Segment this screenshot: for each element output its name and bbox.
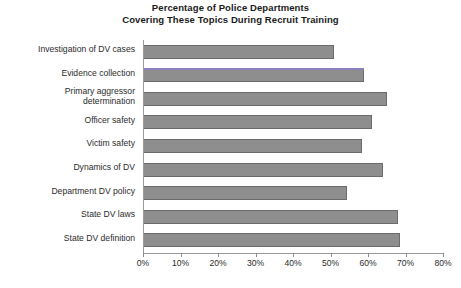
x-tick-label-20: 20% <box>200 258 236 268</box>
chart-title-line-1: Percentage of Police Departments <box>0 2 461 14</box>
bar-state-dv-laws[interactable] <box>143 210 398 224</box>
bar-state-dv-definition[interactable] <box>143 233 400 247</box>
category-label-officer-safety: Officer safety <box>0 115 139 125</box>
x-tick-label-70: 70% <box>388 258 424 268</box>
category-label-department-dv-policy: Department DV policy <box>0 186 139 196</box>
category-label-evidence-collection: Evidence collection <box>0 68 139 78</box>
category-label-dynamics-of-dv: Dynamics of DV <box>0 162 139 172</box>
chart-title-line-2: Covering These Topics During Recruit Tra… <box>0 14 461 26</box>
x-tick-label-60: 60% <box>350 258 386 268</box>
x-tick-mark <box>443 253 444 257</box>
bar-investigation-of-dv-cases[interactable] <box>143 45 334 59</box>
bar-victim-safety[interactable] <box>143 139 362 153</box>
category-label-victim-safety: Victim safety <box>0 138 139 148</box>
category-label-line: determination <box>0 96 135 106</box>
x-tick-mark <box>331 253 332 257</box>
bar-department-dv-policy[interactable] <box>143 186 347 200</box>
x-tick-label-40: 40% <box>275 258 311 268</box>
x-tick-mark <box>368 253 369 257</box>
bar-evidence-collection[interactable] <box>143 68 364 82</box>
plot-area <box>143 40 443 253</box>
category-label-state-dv-laws: State DV laws <box>0 209 139 219</box>
category-label-line: Investigation of DV cases <box>38 44 135 54</box>
category-label-line: Dynamics of DV <box>73 162 135 172</box>
bar-chart: Percentage of Police Departments Coverin… <box>0 0 461 288</box>
x-tick-mark <box>406 253 407 257</box>
category-label-line: State DV laws <box>81 209 135 219</box>
bar-dynamics-of-dv[interactable] <box>143 163 383 177</box>
category-label-line: Department DV policy <box>51 186 135 196</box>
category-label-line: Victim safety <box>86 138 135 148</box>
category-label-state-dv-definition: State DV definition <box>0 233 139 243</box>
x-tick-label-10: 10% <box>163 258 199 268</box>
category-label-primary-aggressor-determination: Primary aggressor determination <box>0 86 139 107</box>
x-tick-mark <box>218 253 219 257</box>
category-label-line: Officer safety <box>85 115 135 125</box>
x-tick-label-80: 80% <box>425 258 461 268</box>
x-tick-mark <box>256 253 257 257</box>
category-label-investigation-of-dv-cases: Investigation of DV cases <box>0 44 139 54</box>
x-tick-label-30: 30% <box>238 258 274 268</box>
category-label-line: Evidence collection <box>61 68 135 78</box>
category-label-line: Primary aggressor <box>0 86 135 96</box>
chart-title: Percentage of Police Departments Coverin… <box>0 2 461 25</box>
y-axis-line <box>143 40 144 253</box>
x-tick-mark <box>293 253 294 257</box>
x-tick-label-0: 0% <box>125 258 161 268</box>
category-axis-labels: Investigation of DV cases Evidence colle… <box>0 40 139 253</box>
bar-officer-safety[interactable] <box>143 115 372 129</box>
x-tick-mark <box>143 253 144 257</box>
x-tick-mark <box>181 253 182 257</box>
bar-primary-aggressor-determination[interactable] <box>143 92 387 106</box>
x-tick-label-50: 50% <box>313 258 349 268</box>
category-label-line: State DV definition <box>64 233 135 243</box>
